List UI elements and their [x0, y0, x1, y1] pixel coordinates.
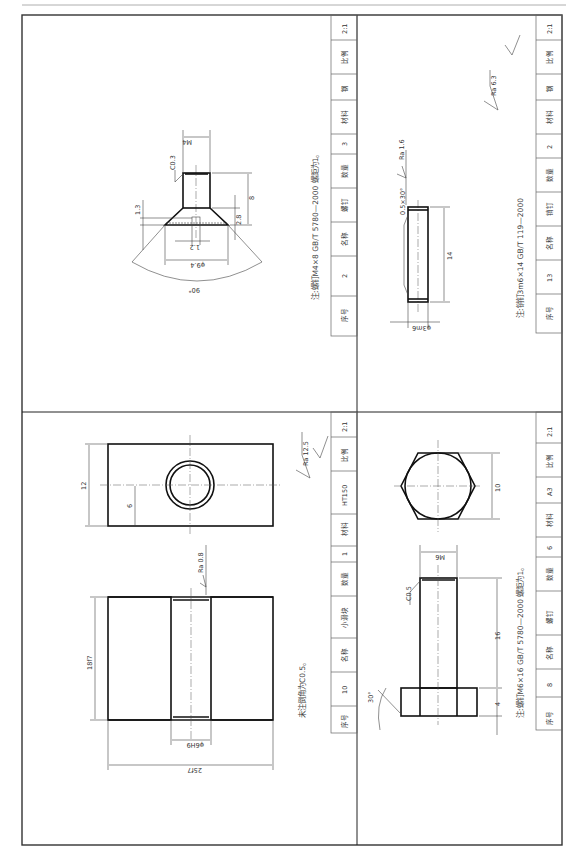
title-label: 材料 — [340, 522, 349, 536]
title-value: 2:1 — [341, 24, 349, 34]
title-label: 材料 — [340, 110, 349, 124]
title-value: 钢 — [341, 85, 349, 92]
general-roughness: Ra 12.5 — [302, 441, 310, 466]
title-label: 比例 — [545, 50, 554, 64]
title-label: 比例 — [340, 448, 349, 462]
title-label: 数量 — [340, 164, 349, 178]
title-value: 2 — [341, 274, 349, 278]
part-slider — [85, 432, 328, 770]
dim-length: 16 — [494, 632, 502, 640]
title-label: 名称 — [340, 232, 349, 246]
dim-head-dia: φ9.4 — [190, 261, 205, 269]
dim-chamfer: C0.3 — [169, 155, 177, 170]
part-screw-m4 — [132, 130, 262, 281]
title-label: 序号 — [545, 711, 554, 725]
title-label: 名称 — [545, 646, 554, 660]
title-label: 序号 — [340, 714, 349, 728]
dim-angle: 90° — [188, 286, 200, 294]
title-value: 小滑块 — [340, 607, 349, 628]
title-value: 销钉 — [545, 202, 554, 216]
title-label: 序号 — [340, 308, 349, 322]
part-note: 注:螺钉M4×8 GB/T 5780—2000 螺距为1。 — [310, 151, 320, 301]
engineering-drawing-sheet: M4 C0.3 8 2.8 1.3 1.2 φ9.4 90° 注:螺钉M4×8 … — [0, 0, 586, 862]
dim-height: 18f7 — [86, 655, 94, 670]
title-value: 螺钉 — [545, 610, 554, 624]
part-hex-bolt — [378, 440, 502, 735]
dim-depth: 12 — [80, 482, 88, 490]
general-roughness: Ra 6.3 — [490, 75, 498, 96]
title-value: HT150 — [341, 485, 349, 506]
dim-across-flats: 10 — [494, 484, 502, 492]
dim-chamfer: 0.5×30° — [399, 188, 407, 215]
title-label: 材料 — [545, 513, 554, 527]
part-note: 未注倒角为C0.5。 — [297, 659, 307, 718]
title-value: 钢 — [546, 85, 554, 92]
title-value: 6 — [546, 546, 554, 550]
dim-chamfer: C0.5 — [405, 586, 413, 601]
title-value: 10 — [341, 686, 349, 694]
surface-roughness: Ra 0.8 — [197, 552, 205, 573]
title-value: 2:1 — [546, 24, 554, 34]
dim-angle: 30° — [367, 691, 375, 703]
part-pin — [390, 35, 520, 328]
outer-frame — [22, 15, 562, 845]
dim-head-height: 4 — [494, 702, 502, 706]
title-label: 数量 — [545, 567, 554, 581]
dim-length: 14 — [446, 252, 454, 260]
title-value: 8 — [546, 683, 554, 687]
surface-roughness: Ra 1.6 — [398, 139, 406, 160]
title-label: 序号 — [545, 306, 554, 320]
title-label: 名称 — [545, 236, 554, 250]
dim-hole: φ6H9 — [187, 741, 204, 749]
title-value: 螺钉 — [340, 198, 349, 212]
dim-center: 6 — [126, 504, 134, 508]
title-value: 3 — [341, 142, 349, 146]
dim-thread: M6 — [435, 553, 445, 561]
title-label: 比例 — [340, 50, 349, 64]
dim-length: 8 — [248, 196, 256, 200]
part-note: 注:螺钉M6×16 GB/T 5780—2000 螺距为1。 — [515, 564, 525, 718]
title-value: 2:1 — [341, 422, 349, 432]
title-value: 2 — [546, 145, 554, 149]
title-value: A3 — [546, 487, 554, 496]
dim-thread: M4 — [182, 138, 192, 146]
title-value: 13 — [546, 274, 554, 282]
title-label: 数量 — [340, 572, 349, 586]
title-label: 数量 — [545, 168, 554, 182]
title-value: 2:1 — [546, 427, 554, 437]
title-value: 1 — [341, 552, 349, 556]
part-note: 注:销钉3m6×14 GB/T 119—2000 — [515, 198, 525, 318]
dim-width: 25f7 — [187, 766, 202, 774]
title-label: 名称 — [340, 648, 349, 662]
title-label: 材料 — [545, 110, 554, 124]
dim-head-height: 2.8 — [235, 215, 243, 225]
dim-diameter: φ3m6 — [412, 324, 431, 332]
title-label: 比例 — [545, 454, 554, 468]
dim-slot-depth: 1.3 — [134, 205, 142, 215]
dim-slot-width: 1.2 — [190, 243, 200, 251]
